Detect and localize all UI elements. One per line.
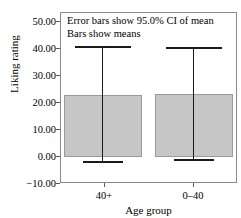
y-tick-label-m10: −10.00 — [16, 179, 56, 189]
y-tick-label-0: 0.00 — [16, 152, 56, 162]
error-bar-cap-upper-40plus — [75, 46, 131, 48]
y-tick-label-50: 50.00 — [16, 17, 56, 27]
y-tick-mark-m10 — [56, 183, 60, 184]
plot-area: Error bars show 95.0% CI of mean Bars sh… — [60, 12, 237, 183]
y-tick-label-30: 30.00 — [16, 71, 56, 81]
x-tick-mark-40plus — [104, 183, 105, 187]
bar-40plus[interactable] — [64, 95, 142, 157]
y-tick-label-20: 20.00 — [16, 98, 56, 108]
bar-chart-figure: Liking rating 50.00 40.00 30.00 20.00 10… — [0, 0, 241, 218]
error-bar-stem-0-40 — [193, 48, 194, 160]
x-axis-title: Age group — [60, 204, 237, 216]
y-tick-label-10: 10.00 — [16, 125, 56, 135]
error-bar-cap-lower-40plus — [83, 161, 123, 163]
x-tick-mark-0-40 — [193, 183, 194, 187]
annotation-line-2: Bars show means — [67, 28, 214, 41]
bar-0-40[interactable] — [155, 94, 233, 157]
y-tick-label-40: 40.00 — [16, 44, 56, 54]
annotation-line-1: Error bars show 95.0% CI of mean — [67, 15, 214, 28]
error-bar-stem-40plus — [102, 47, 103, 162]
y-axis-tick-labels: 50.00 40.00 30.00 20.00 10.00 0.00 −10.0… — [12, 0, 56, 218]
error-bar-cap-lower-0-40 — [174, 159, 214, 161]
error-bar-cap-upper-0-40 — [166, 47, 222, 49]
chart-annotation: Error bars show 95.0% CI of mean Bars sh… — [67, 15, 214, 40]
x-tick-label-0-40: 0–40 — [163, 190, 223, 201]
x-tick-label-40plus: 40+ — [74, 190, 134, 201]
